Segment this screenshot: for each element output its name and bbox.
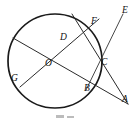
figure-canvas xyxy=(0,0,137,123)
point-label-O: O xyxy=(45,59,52,69)
point-label-F: F xyxy=(91,17,97,27)
point-label-A: A xyxy=(122,95,128,105)
segment-G-to-F xyxy=(20,19,99,87)
point-label-G: G xyxy=(11,74,18,84)
point-label-E: E xyxy=(122,6,128,16)
point-label-C: C xyxy=(101,58,107,68)
segment-left-to-A xyxy=(13,38,128,104)
point-label-D: D xyxy=(60,33,67,43)
geometry-figure: A B C D E F G O xyxy=(0,0,137,123)
caption-fragment xyxy=(56,114,80,119)
point-label-B: B xyxy=(84,84,90,94)
segment-top-to-A xyxy=(72,14,128,104)
